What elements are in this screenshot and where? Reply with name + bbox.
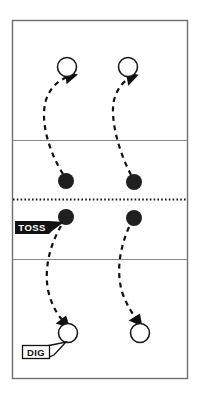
court-svg-canvas: TOSS DIG [0,0,198,398]
ball-marker-upper-right [126,174,142,190]
player-marker-top-left [58,58,77,77]
player-marker-top-right [119,58,138,77]
ball-marker-upper-left [58,173,74,189]
ball-marker-lower-right [126,210,142,226]
dig-label-text: DIG [27,347,45,358]
player-marker-bottom-right [131,324,150,343]
volleyball-drill-diagram: TOSS DIG [0,0,198,398]
toss-label-text: TOSS [18,222,45,233]
player-marker-bottom-left [59,324,78,343]
